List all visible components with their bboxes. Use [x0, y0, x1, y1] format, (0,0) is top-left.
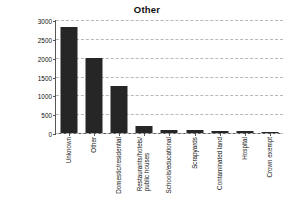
y-tick-label: 1500	[38, 74, 52, 81]
x-axis-tick-label-line: Other	[89, 137, 96, 153]
x-tick-mark	[220, 133, 221, 136]
plot-area: 050010001500200025003000	[55, 20, 283, 134]
x-axis-labels: UnknownOtherDomestic/residentialRestaura…	[55, 137, 282, 216]
bar	[60, 27, 77, 133]
y-tick-label: 2500	[38, 36, 52, 43]
bar-slot	[207, 20, 232, 133]
x-axis-tick-label: Domestic/residential	[115, 137, 122, 194]
x-axis-tick-label-line: Hospital	[241, 137, 248, 160]
y-tick-label: 0	[48, 131, 52, 138]
x-axis-tick-label: Contaminated land	[215, 137, 222, 190]
bar-slot	[81, 20, 106, 133]
bar-slot	[258, 20, 283, 133]
x-axis-tick-label: Unknown	[64, 137, 71, 163]
x-label-slot: Crown exempt	[257, 137, 282, 216]
x-label-slot: Unknown	[55, 137, 80, 216]
x-axis-tick-label-line: Crown exempt	[266, 137, 273, 178]
x-axis-tick-label-line: Contaminated land	[215, 137, 222, 190]
x-axis-tick-label: Scrapyards	[190, 137, 197, 169]
x-label-slot: Schools/educational	[156, 137, 181, 216]
x-label-slot: Contaminated land	[206, 137, 231, 216]
x-tick-mark	[270, 133, 271, 136]
x-axis-tick-label-line: public houses	[143, 137, 150, 191]
bar	[136, 126, 153, 133]
bar-series	[56, 20, 283, 133]
x-tick-mark	[169, 133, 170, 136]
bar	[85, 58, 102, 133]
bar-slot	[56, 20, 81, 133]
x-axis-tick-label-line: Schools/educational	[165, 137, 172, 193]
bar-slot	[182, 20, 207, 133]
bar-slot	[157, 20, 182, 133]
chart-title: Other	[0, 4, 294, 15]
x-axis-tick-label: Hospital	[241, 137, 248, 160]
x-label-slot: Restaurants/hotels/public houses	[131, 137, 156, 216]
x-tick-mark	[119, 133, 120, 136]
x-axis-tick-label: Other	[89, 137, 96, 153]
y-tick-mark	[53, 134, 56, 135]
bar-slot	[106, 20, 131, 133]
x-tick-mark	[195, 133, 196, 136]
x-label-slot: Domestic/residential	[105, 137, 130, 216]
y-tick-label: 3000	[38, 18, 52, 25]
x-tick-mark	[144, 133, 145, 136]
bar-slot	[132, 20, 157, 133]
bar-slot	[233, 20, 258, 133]
bar-chart: Other Number of incidents 05001000150020…	[0, 0, 294, 216]
y-tick-label: 500	[41, 112, 52, 119]
x-label-slot: Hospital	[232, 137, 257, 216]
x-axis-tick-label: Crown exempt	[266, 137, 273, 178]
x-axis-tick-label-line: Domestic/residential	[115, 137, 122, 194]
x-tick-mark	[69, 133, 70, 136]
x-axis-tick-label: Restaurants/hotels/public houses	[136, 137, 150, 191]
y-tick-label: 2000	[38, 55, 52, 62]
x-tick-mark	[245, 133, 246, 136]
x-axis-tick-label-line: Unknown	[64, 137, 71, 163]
x-label-slot: Other	[80, 137, 105, 216]
x-label-slot: Scrapyards	[181, 137, 206, 216]
x-axis-tick-label-line: Scrapyards	[190, 137, 197, 169]
x-axis-tick-label: Schools/educational	[165, 137, 172, 193]
x-tick-mark	[94, 133, 95, 136]
y-tick-label: 1000	[38, 93, 52, 100]
bar	[111, 86, 128, 133]
